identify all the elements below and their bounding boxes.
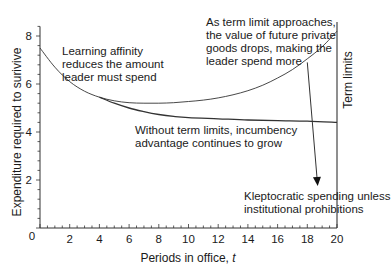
annotation-term-limit-approaches: As term limit approaches, the value of f…	[206, 16, 336, 68]
x-tick-label: 12	[212, 233, 225, 245]
x-axis-title: Periods in office, t	[140, 251, 236, 265]
kleptocratic-arrow-shaft	[307, 62, 317, 177]
origin-label: 0	[29, 230, 35, 242]
x-tick-label: 20	[331, 233, 344, 245]
y-tick-label: 4	[26, 126, 33, 138]
y-tick-label: 2	[26, 174, 32, 186]
term-limits-label: Term limits	[341, 51, 355, 108]
y-tick-label: 6	[26, 78, 32, 90]
annotation-without-term-limits: Without term limits, incumbency advantag…	[135, 124, 297, 150]
x-tick-label: 4	[96, 233, 103, 245]
curve-without-term-limits	[99, 97, 337, 122]
annotation-learning-affinity: Learning affinity reduces the amount lea…	[62, 45, 164, 84]
x-tick-label: 18	[301, 233, 314, 245]
annotation-kleptocratic-spending: Kleptocratic spending unless institution…	[244, 190, 390, 216]
y-axis-title: Expenditure required to surivive	[10, 47, 24, 216]
x-tick-label: 14	[242, 233, 255, 245]
x-tick-label: 8	[156, 233, 162, 245]
x-tick-label: 10	[182, 233, 195, 245]
x-tick-label: 2	[66, 233, 72, 245]
y-tick-label: 8	[26, 30, 32, 42]
x-tick-label: 6	[126, 233, 132, 245]
arrowhead-icon	[313, 177, 321, 186]
x-tick-label: 16	[271, 233, 284, 245]
